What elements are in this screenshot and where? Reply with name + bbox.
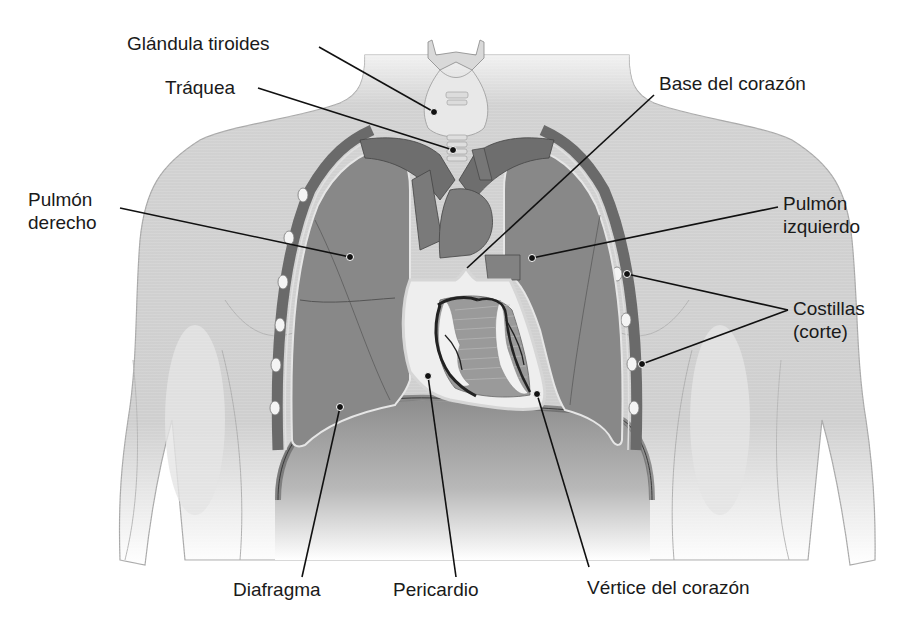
rib-cut <box>627 357 637 371</box>
label-right-lung-line2: derecho <box>28 211 97 234</box>
label-right-lung: Pulmón derecho <box>28 188 97 234</box>
label-left-lung-line1: Pulmón <box>783 192 860 215</box>
anatomy-diagram: Glándula tiroides Tráquea Base del coraz… <box>0 0 914 618</box>
label-left-lung: Pulmón izquierdo <box>783 192 860 238</box>
label-pericardium: Pericardio <box>393 578 479 601</box>
label-ribs-line2: (corte) <box>793 320 865 343</box>
rib-cut <box>621 313 631 327</box>
rib-cut <box>629 401 639 415</box>
label-diaphragm: Diafragma <box>233 578 321 601</box>
label-thyroid: Glándula tiroides <box>127 32 270 55</box>
rib-cut <box>270 401 280 415</box>
label-ribs-line1: Costillas <box>793 297 865 320</box>
label-trachea: Tráquea <box>165 76 235 99</box>
rib-cut <box>278 275 288 289</box>
label-heart-apex: Vértice del corazón <box>587 576 750 599</box>
rib-cut <box>271 358 281 372</box>
rib-cut <box>275 318 285 332</box>
label-left-lung-line2: izquierdo <box>783 215 860 238</box>
label-ribs: Costillas (corte) <box>793 297 865 343</box>
rib-cut <box>298 188 308 202</box>
label-right-lung-line1: Pulmón <box>28 188 97 211</box>
label-heart-base: Base del corazón <box>659 72 806 95</box>
